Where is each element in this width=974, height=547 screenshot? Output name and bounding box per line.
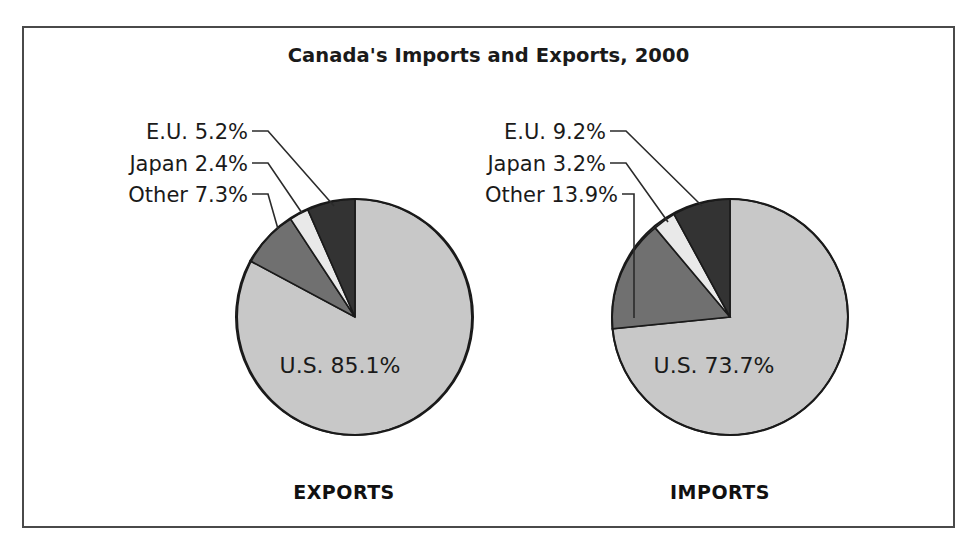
chart-frame: Canada's Imports and Exports, 2000 <box>22 26 955 528</box>
chart-title: Canada's Imports and Exports, 2000 <box>24 44 953 67</box>
